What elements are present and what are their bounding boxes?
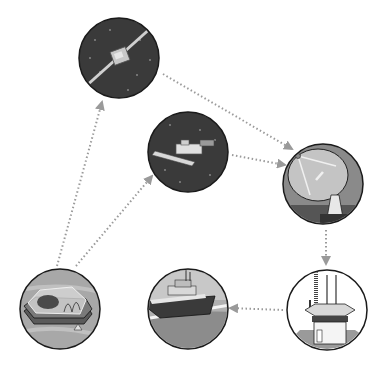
rescue-flow-diagram [0, 0, 384, 368]
node-coordination-center [285, 270, 370, 352]
node-liferaft [20, 269, 100, 349]
node-polar-satellite [148, 112, 228, 192]
arrow-raft-to-geo-satellite [57, 102, 102, 266]
node-geo-satellite [79, 18, 159, 98]
arrow-center-to-lifeboat [230, 308, 283, 310]
node-ground-station [280, 144, 370, 230]
node-lifeboat [140, 265, 235, 352]
arrow-raft-to-polar-satellite [76, 176, 152, 266]
arrow-polar-to-ground-station [232, 155, 285, 165]
